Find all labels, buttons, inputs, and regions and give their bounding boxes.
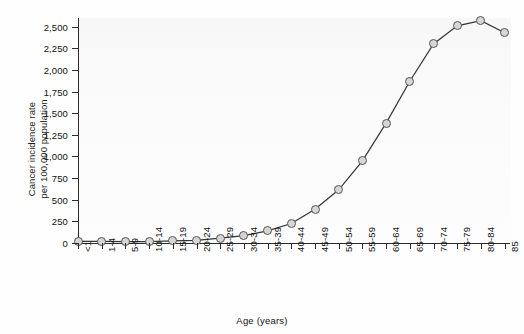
y-tick-mark [72,156,78,157]
x-tick-mark [291,243,292,249]
x-tick-label: 10-14 [153,227,164,252]
x-tick-label: 30-34 [248,227,259,252]
y-tick-label: 2,500 [28,21,68,32]
x-tick-label: 15-19 [177,227,188,252]
x-tick-label: 55-59 [366,227,377,252]
x-tick-label: 60-64 [390,227,401,252]
data-point-marker [382,119,391,128]
cancer-incidence-chart: 02505007501,0001,2501,5001,7502,0002,250… [0,0,524,334]
x-tick-label: 5-9 [129,238,140,252]
y-axis-title: Cancer incidence rate per 100,000 popula… [26,54,50,244]
x-tick-mark [362,243,363,249]
x-tick-label: 85 [509,241,520,252]
x-tick-mark [481,243,482,249]
x-tick-mark [315,243,316,249]
x-tick-label: 40-44 [295,227,306,252]
x-tick-mark [78,243,79,249]
x-tick-mark [173,243,174,249]
x-tick-label: 70-74 [438,227,449,252]
y-tick-mark [72,92,78,93]
y-tick-mark [72,70,78,71]
x-tick-mark [149,243,150,249]
y-tick-label: 2,250 [28,43,68,54]
x-tick-label: 75-79 [461,227,472,252]
x-tick-label: 50-54 [343,227,354,252]
x-tick-label: <1 [82,241,93,252]
x-tick-mark [505,243,506,249]
x-tick-label: 35-39 [272,227,283,252]
x-tick-label: 25-29 [224,227,235,252]
y-tick-mark [72,221,78,222]
x-tick-mark [339,243,340,249]
x-tick-mark [410,243,411,249]
y-tick-mark [72,135,78,136]
x-tick-mark [220,243,221,249]
x-tick-mark [434,243,435,249]
x-axis-title: Age (years) [0,315,524,326]
x-tick-mark [268,243,269,249]
y-tick-mark [72,200,78,201]
y-tick-mark [72,27,78,28]
plot-area [78,18,511,243]
x-tick-label: 20-24 [201,227,212,252]
x-tick-label: 80-84 [485,227,496,252]
x-tick-label: 65-69 [414,227,425,252]
x-tick-mark [197,243,198,249]
x-tick-mark [457,243,458,249]
y-axis-title-line1: Cancer incidence rate [26,102,37,197]
y-tick-mark [72,113,78,114]
x-tick-mark [244,243,245,249]
data-point-marker [405,77,414,86]
data-point-marker [453,21,462,30]
y-axis-title-line2: per 100,000 population [38,54,50,244]
y-tick-mark [72,48,78,49]
x-tick-mark [386,243,387,249]
y-tick-mark [72,178,78,179]
data-point-marker [311,205,320,214]
x-tick-mark [125,243,126,249]
x-tick-label: 45-49 [319,227,330,252]
x-tick-label: 1-4 [106,238,117,252]
x-tick-mark [102,243,103,249]
